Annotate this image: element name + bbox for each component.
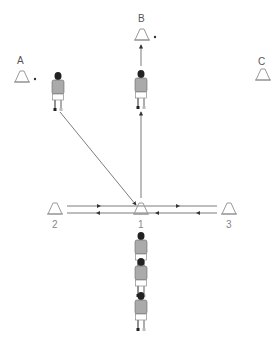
cone-2 <box>47 203 63 214</box>
pass-arrow-A-to-1 <box>60 112 136 205</box>
cone-label-A: A <box>17 56 24 66</box>
cone-C <box>255 69 271 80</box>
ball-marker-A <box>34 78 36 80</box>
player-at-A <box>52 72 64 111</box>
cone-label-B: B <box>138 14 145 24</box>
arrowhead-left-2 <box>155 211 159 215</box>
ball-marker-B <box>154 36 156 38</box>
cone-label-3: 3 <box>226 220 232 230</box>
arrowhead-right-1 <box>97 204 101 208</box>
arrowhead-right-2 <box>176 204 180 208</box>
arrowhead-left-3 <box>196 211 200 215</box>
cone-A <box>14 71 30 82</box>
arrowhead-left-1 <box>96 211 100 215</box>
cone-label-1: 1 <box>138 220 144 230</box>
drill-diagram <box>0 0 280 350</box>
cone-label-C: C <box>258 57 265 67</box>
player-at-B <box>135 70 147 109</box>
queue-player-3 <box>135 292 147 331</box>
cone-label-2: 2 <box>52 220 58 230</box>
cone-3 <box>221 203 237 214</box>
queue-player-2 <box>135 258 147 297</box>
cone-B <box>134 29 150 40</box>
